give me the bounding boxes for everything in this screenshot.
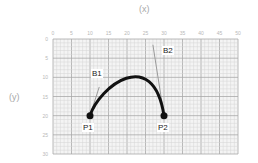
- label-p1: P1: [82, 123, 94, 132]
- label-b1: B1: [91, 69, 103, 78]
- label-p2: P2: [157, 123, 169, 132]
- bezier-plot: [0, 0, 258, 163]
- label-b2: B2: [162, 46, 174, 55]
- point-p2-marker[interactable]: [161, 112, 168, 119]
- point-p1-marker[interactable]: [87, 112, 94, 119]
- grid: [53, 39, 238, 154]
